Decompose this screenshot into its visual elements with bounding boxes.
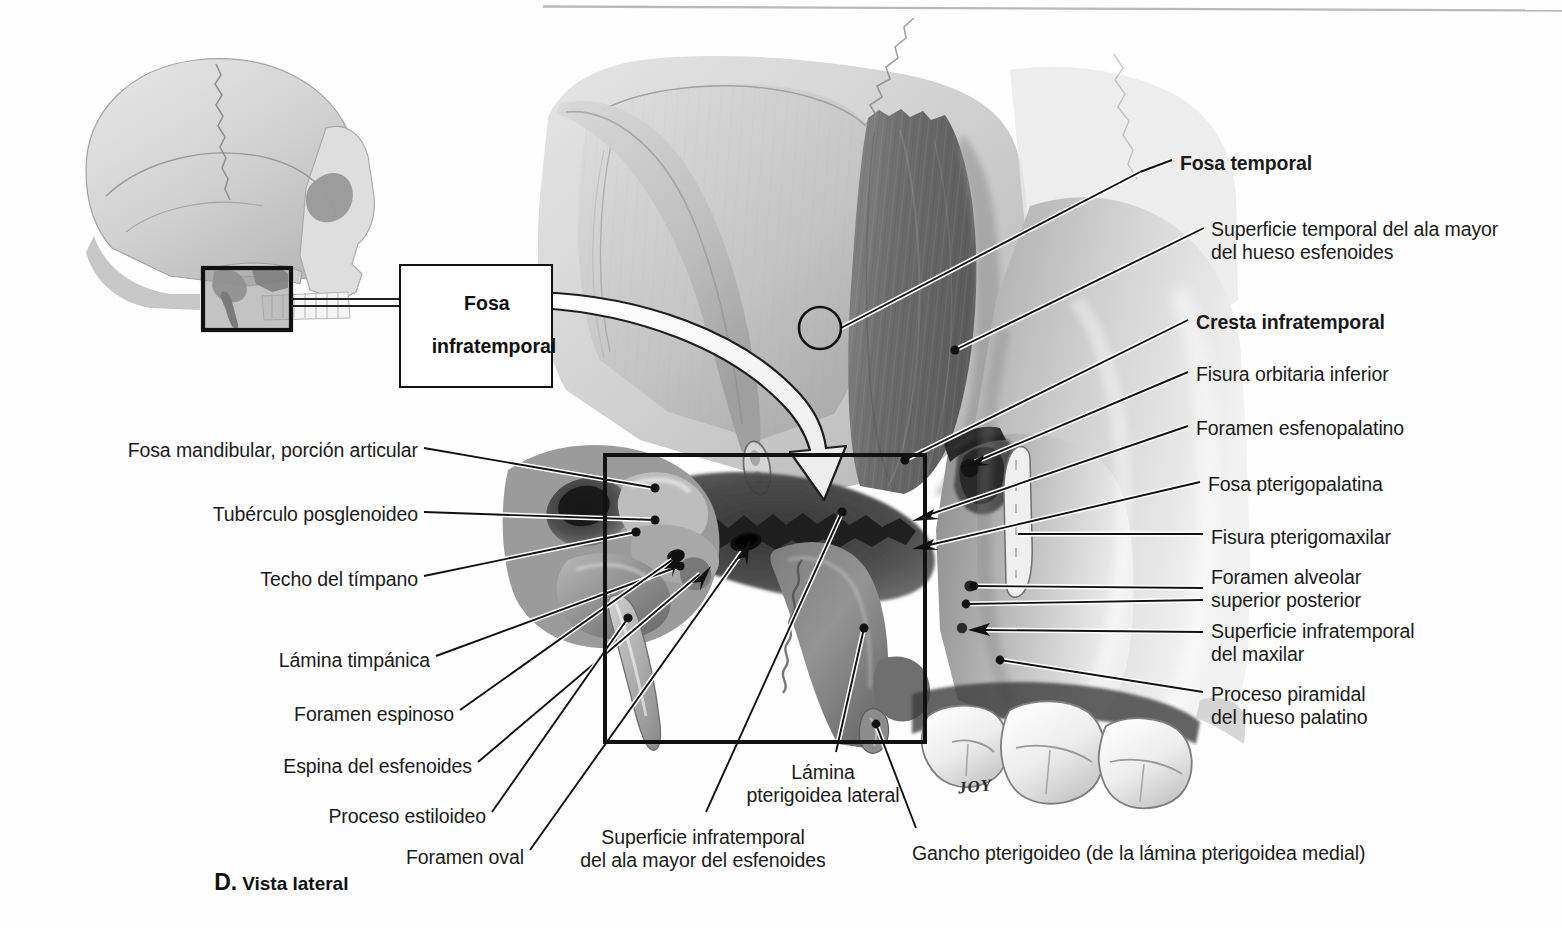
callout-line-1: Fosa	[464, 292, 510, 314]
label-lamina-pterigoidea-lateral: Lámina pterigoidea lateral	[743, 761, 903, 807]
alveolar-foramen-lower	[957, 623, 967, 633]
label-cresta-infratemporal: Cresta infratemporal	[1196, 311, 1385, 334]
label-lamina-timpanica: Lámina timpánica	[70, 649, 430, 672]
callout-line-2: infratemporal	[432, 335, 557, 357]
label-superficie-infratemporal-ala-mayor-esfenoides: Superficie infratemporal del ala mayor d…	[568, 826, 838, 872]
molar-3	[1099, 718, 1192, 808]
figure-canvas: Fosa infratemporal Fosa temporal Superfi…	[0, 0, 1562, 928]
artist-signature: JOY	[957, 776, 993, 799]
label-foramen-esfenopalatino: Foramen esfenopalatino	[1196, 417, 1404, 440]
label-espina-del-esfenoides: Espina del esfenoides	[110, 755, 472, 778]
label-superficie-temporal-ala-mayor: Superficie temporal del ala mayor del hu…	[1211, 218, 1498, 264]
callout-fosa-infratemporal: Fosa infratemporal	[399, 264, 553, 388]
label-fosa-temporal: Fosa temporal	[1180, 152, 1312, 175]
label-foramen-espinoso: Foramen espinoso	[94, 703, 454, 726]
label-fisura-pterigomaxilar: Fisura pterigomaxilar	[1211, 526, 1391, 549]
label-foramen-alveolar-superior-posterior: Foramen alveolar superior posterior	[1211, 566, 1361, 612]
label-superficie-infratemporal-maxilar: Superficie infratemporal del maxilar	[1211, 620, 1415, 666]
molar-2	[1001, 701, 1105, 803]
label-fisura-orbitaria-inferior: Fisura orbitaria inferior	[1196, 363, 1389, 386]
figure-caption-text: Vista lateral	[242, 873, 348, 894]
figure-caption: D.Vista lateral	[193, 847, 348, 918]
label-techo-del-timpano: Techo del tímpano	[60, 568, 418, 591]
figure-caption-letter: D.	[214, 869, 237, 895]
label-fosa-pterigopalatina: Fosa pterigopalatina	[1208, 473, 1383, 496]
label-proceso-piramidal-hueso-palatino: Proceso piramidal del hueso palatino	[1211, 683, 1368, 729]
label-gancho-pterigoideo: Gancho pterigoideo (de la lámina pterigo…	[912, 842, 1365, 865]
label-proceso-estiloideo: Proceso estiloideo	[126, 805, 486, 828]
label-fosa-mandibular-porcion-articular: Fosa mandibular, porción articular	[60, 439, 418, 462]
label-tuberculo-posglenoideo: Tubérculo posglenoideo	[60, 503, 418, 526]
